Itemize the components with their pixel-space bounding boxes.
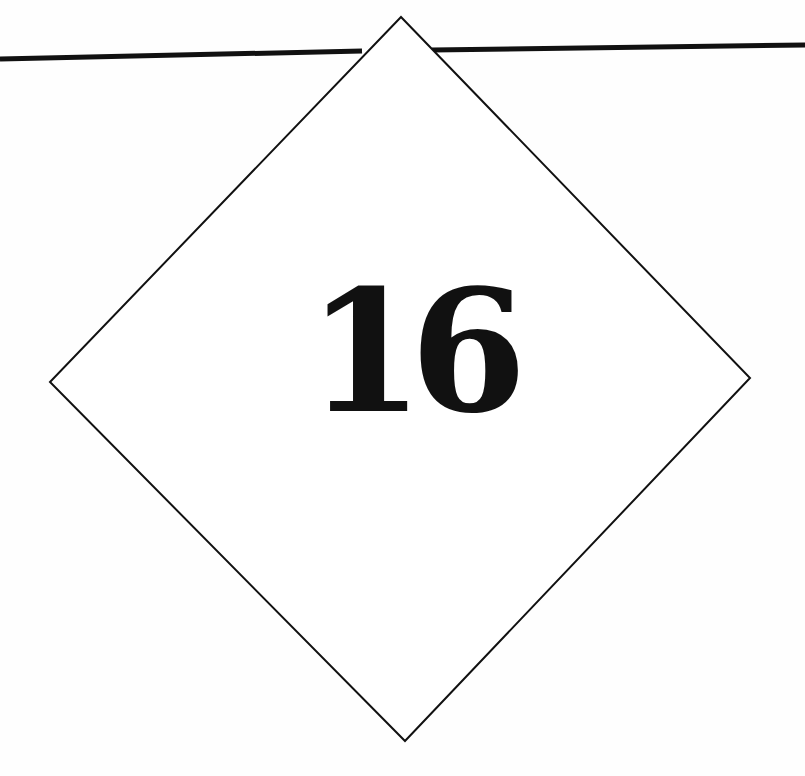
chapter-number: 16 [300, 262, 520, 442]
horizontal-rule-left [0, 51, 362, 59]
horizontal-rule-right [432, 45, 805, 50]
chapter-opener-page: 16 [0, 0, 805, 776]
